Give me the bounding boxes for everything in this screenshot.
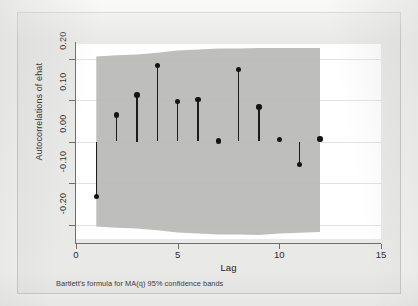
stem-line bbox=[157, 65, 158, 141]
data-point-marker bbox=[236, 67, 241, 72]
x-axis-tick-label: 10 bbox=[274, 249, 285, 260]
data-point-marker bbox=[277, 137, 282, 142]
data-point-marker bbox=[155, 63, 160, 68]
data-point-marker bbox=[114, 112, 119, 117]
data-point-marker bbox=[256, 104, 261, 109]
stem-line bbox=[116, 115, 117, 142]
stem-line bbox=[96, 142, 97, 197]
scanned-page: Autocorrelations of ehat 0.200.100.00-0.… bbox=[0, 0, 418, 306]
y-axis-tick-label: 0.00 bbox=[58, 114, 62, 132]
data-point-marker bbox=[94, 194, 99, 199]
autocorrelation-stems bbox=[76, 44, 381, 239]
stem-line bbox=[258, 107, 259, 141]
y-axis-line bbox=[75, 42, 76, 243]
plot-panel bbox=[76, 44, 381, 239]
x-axis-tick-label: 15 bbox=[376, 249, 387, 260]
stem-line bbox=[177, 101, 178, 141]
stem-line bbox=[197, 99, 198, 141]
data-point-marker bbox=[216, 138, 221, 143]
y-axis-tick bbox=[69, 183, 75, 184]
x-axis-title: Lag bbox=[76, 262, 381, 273]
y-axis-tick bbox=[69, 142, 75, 143]
x-axis-tick-label: 0 bbox=[73, 249, 78, 260]
stem-line bbox=[136, 95, 137, 142]
y-axis-tick-label: 0.10 bbox=[58, 73, 62, 91]
y-axis-tick bbox=[69, 59, 75, 60]
y-axis-tick-label: -0.20 bbox=[58, 192, 62, 214]
data-point-marker bbox=[317, 136, 322, 141]
y-axis-tick-label: 0.20 bbox=[58, 31, 62, 49]
y-axis-title: Autocorrelations of ehat bbox=[34, 63, 44, 160]
y-axis-tick bbox=[69, 100, 75, 101]
chart-note: Bartlett's formula for MA(q) 95% confide… bbox=[56, 279, 223, 288]
x-axis-line bbox=[75, 243, 381, 244]
data-point-marker bbox=[134, 92, 139, 97]
data-point-marker bbox=[297, 162, 302, 167]
x-axis-tick-label: 5 bbox=[175, 249, 180, 260]
graph-region: Autocorrelations of ehat 0.200.100.00-0.… bbox=[18, 13, 400, 293]
stem-line bbox=[238, 70, 239, 142]
data-point-marker bbox=[175, 99, 180, 104]
data-point-marker bbox=[195, 97, 200, 102]
y-axis-tick bbox=[69, 225, 75, 226]
y-axis-tick-label: -0.10 bbox=[58, 151, 62, 173]
